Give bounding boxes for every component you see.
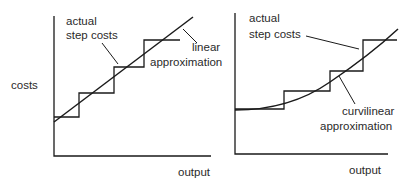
right-x-axis-label: output — [349, 164, 382, 176]
left-step-costs — [54, 40, 180, 117]
right-approx-label-line2: approximation — [320, 120, 392, 132]
right-step-costs-leader — [306, 36, 359, 49]
right-approx-label-line1: curvilinear — [342, 105, 395, 117]
right-panel: actual step costs curvilinear approximat… — [235, 12, 398, 176]
left-step-label-line2: step costs — [66, 29, 118, 41]
right-step-label-line1: actual — [249, 12, 280, 24]
left-approx-label-line2: approximation — [150, 56, 222, 68]
left-panel: costs actual step costs linear approxima… — [11, 15, 222, 178]
right-step-label-line2: step costs — [249, 28, 301, 40]
left-y-axis-label: costs — [11, 79, 38, 91]
cost-behavior-diagram: costs actual step costs linear approxima… — [0, 0, 410, 185]
left-x-axis-label: output — [178, 166, 211, 178]
left-step-costs-leader — [102, 43, 118, 64]
left-approx-label-line1: linear — [192, 41, 220, 53]
right-curvilinear-approximation-curve — [235, 29, 398, 110]
right-curvilinear-leader — [339, 76, 355, 104]
left-step-label-line1: actual — [66, 15, 97, 27]
